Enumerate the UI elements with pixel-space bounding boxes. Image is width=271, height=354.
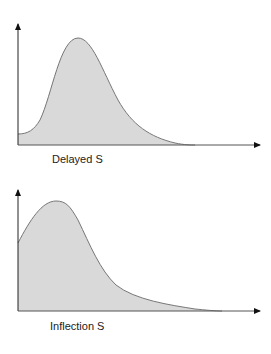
charts-canvas [0, 0, 271, 354]
delayed-s-label: Delayed S [52, 153, 103, 165]
inflection-s-chart [18, 190, 260, 311]
inflection-s-label: Inflection S [50, 320, 104, 332]
inflection-s-area [18, 201, 222, 311]
delayed-s-chart [18, 24, 260, 145]
delayed-s-area [18, 38, 195, 145]
